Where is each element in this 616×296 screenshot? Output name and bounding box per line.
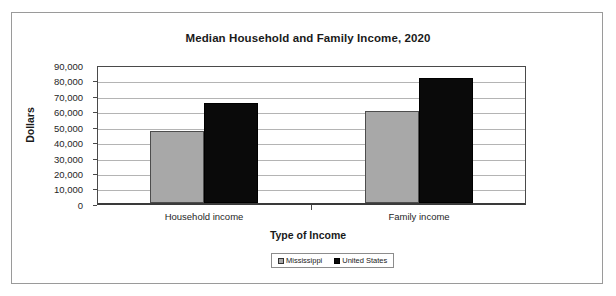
y-tick-label: 60,000 — [13, 107, 83, 118]
bar-household-united-states[interactable] — [204, 103, 258, 203]
bar-family-united-states[interactable] — [419, 78, 473, 203]
legend-item-united-states[interactable]: United States — [334, 256, 387, 265]
legend-label: United States — [342, 256, 387, 265]
y-tick-label: 50,000 — [13, 122, 83, 133]
x-axis-title: Type of Income — [12, 229, 604, 241]
chart-legend: Mississippi United States — [271, 253, 394, 268]
y-tick-label: 10,000 — [13, 184, 83, 195]
y-tick-label: 0 — [13, 199, 83, 210]
chart-figure: Median Household and Family Income, 2020… — [0, 0, 616, 296]
y-tick-label: 70,000 — [13, 91, 83, 102]
chart-title: Median Household and Family Income, 2020 — [12, 32, 604, 44]
legend-swatch-icon — [334, 258, 340, 264]
legend-item-mississippi[interactable]: Mississippi — [278, 256, 322, 265]
y-tick-label: 30,000 — [13, 153, 83, 164]
x-axis-separator-tick — [311, 205, 312, 210]
y-tick-label: 40,000 — [13, 138, 83, 149]
legend-swatch-icon — [278, 258, 284, 264]
y-tick-label: 90,000 — [13, 61, 83, 72]
bar-family-mississippi[interactable] — [365, 111, 419, 203]
x-tick-label-household-income: Household income — [165, 211, 244, 222]
y-tick-label: 20,000 — [13, 169, 83, 180]
bar-household-mississippi[interactable] — [150, 131, 204, 203]
legend-label: Mississippi — [286, 256, 322, 265]
x-tick-label-family-income: Family income — [388, 211, 449, 222]
y-tick-label: 80,000 — [13, 76, 83, 87]
chart-border: Median Household and Family Income, 2020… — [11, 12, 603, 284]
plot-area — [97, 66, 526, 205]
